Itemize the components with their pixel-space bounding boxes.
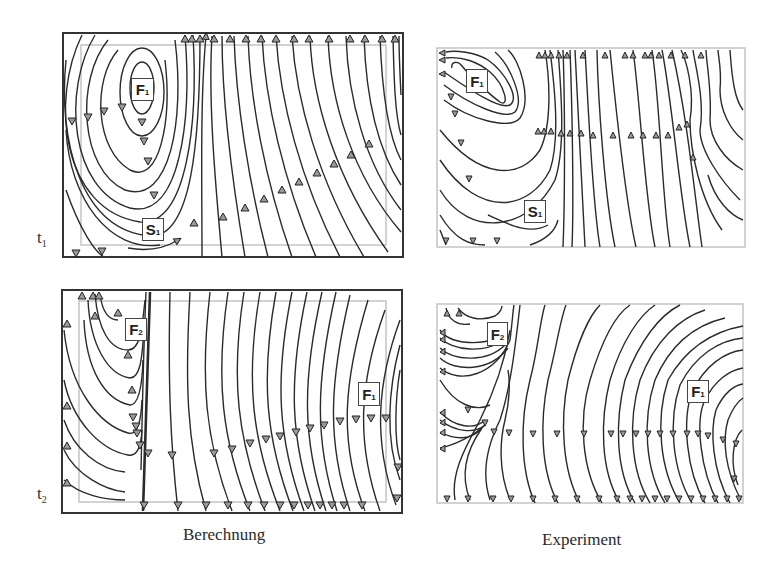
label-exp-t1-f1: F1 [466, 69, 488, 93]
label-sub: 1 [156, 228, 160, 237]
row-label-t1: t1 [37, 228, 47, 249]
label-exp-t1-s1: S1 [524, 200, 546, 223]
label-calc-t2-f2: F2 [125, 318, 147, 341]
caption-experiment: Experiment [542, 530, 621, 550]
label-calc-t1-s1: S1 [142, 218, 164, 241]
row-label-sub: 1 [42, 238, 47, 249]
row-label-sub: 2 [42, 494, 47, 505]
caption-berechnung: Berechnung [183, 525, 265, 545]
label-exp-t2-f2: F2 [487, 322, 508, 346]
label-sub: 2 [500, 333, 504, 342]
label-sub: 2 [138, 328, 142, 337]
panel-calc-t1 [63, 33, 403, 257]
streamline-figure [0, 0, 777, 584]
label-calc-t1-f1: F1 [131, 78, 154, 101]
label-main: F [136, 81, 145, 98]
panel-exp-t2 [437, 304, 743, 503]
label-main: F [362, 386, 371, 403]
label-sub: 1 [145, 88, 149, 97]
label-calc-t2-f1: F1 [358, 382, 380, 406]
panel-calc-t2 [62, 290, 402, 513]
label-main: F [470, 73, 479, 90]
label-sub: 1 [371, 393, 375, 402]
label-sub: 1 [479, 80, 483, 89]
label-exp-t2-f1: F1 [687, 380, 709, 403]
label-main: S [146, 221, 156, 238]
label-main: F [691, 383, 700, 400]
row-label-t2: t2 [37, 484, 47, 505]
label-sub: 1 [538, 210, 542, 219]
label-main: F [129, 321, 138, 338]
label-sub: 1 [700, 390, 704, 399]
label-main: F [491, 326, 500, 343]
label-main: S [528, 203, 538, 220]
